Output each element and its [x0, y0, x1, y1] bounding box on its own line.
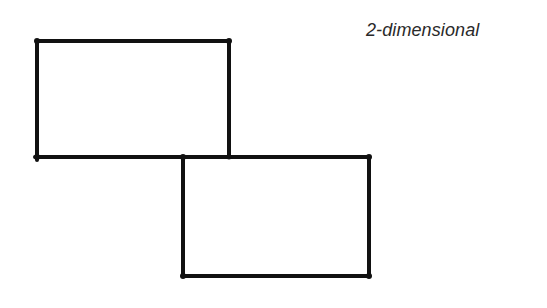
corner-dot	[34, 154, 40, 160]
corner-dot	[226, 38, 232, 44]
corner-dot	[34, 38, 40, 44]
diagram-canvas	[0, 0, 547, 308]
corner-dot	[227, 155, 232, 160]
corner-dot	[180, 273, 186, 279]
rect-upper-left	[37, 41, 229, 160]
corner-dot	[366, 154, 372, 160]
two-rectangles-drawing	[0, 0, 547, 308]
corner-dot	[180, 154, 186, 160]
corner-dot	[366, 273, 372, 279]
rect-lower-right	[183, 157, 369, 276]
diagram-caption: 2-dimensional	[366, 20, 479, 41]
